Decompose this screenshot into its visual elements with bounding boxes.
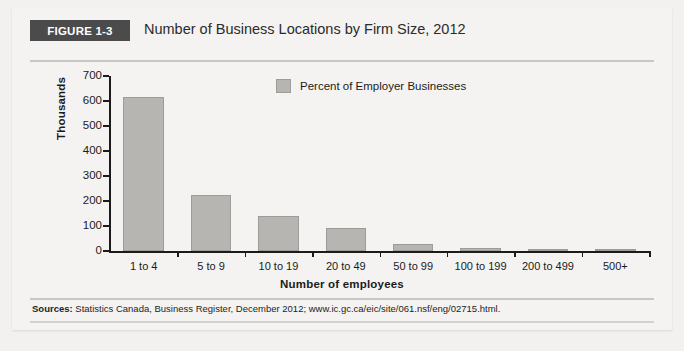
x-tick-label: 100 to 199 [447,260,514,272]
bar [528,249,568,251]
x-tick-label: 500+ [582,260,649,272]
x-tick-mark [514,251,516,257]
x-tick-mark [312,251,314,257]
bar-slot [447,76,514,251]
x-tick-mark [582,251,584,257]
legend-swatch-icon [276,79,291,93]
bar [326,228,366,251]
figure-root: FIGURE 1-3 Number of Business Locations … [0,0,684,351]
x-tick-mark [380,251,382,257]
bar [191,195,231,251]
bar-slot [245,76,312,251]
bar [595,249,635,251]
y-tick-label: 0 [68,244,102,256]
bar-slot [177,76,244,251]
source-note: Sources: Statistics Canada, Business Reg… [32,303,652,314]
x-tick-mark [447,251,449,257]
chart-legend: Percent of Employer Businesses [276,79,466,93]
x-tick-label: 10 to 19 [245,260,312,272]
bottom-divider [30,321,654,323]
bar [258,216,298,251]
y-tick-label: 300 [68,169,102,181]
y-tick-label: 200 [68,194,102,206]
bar-slot [312,76,379,251]
x-tick-label: 50 to 99 [380,260,447,272]
figure-panel: FIGURE 1-3 Number of Business Locations … [12,8,672,330]
y-tick-label: 700 [68,69,102,81]
x-tick-mark [245,251,247,257]
legend-label: Percent of Employer Businesses [300,80,466,92]
source-text: Statistics Canada, Business Register, De… [73,303,501,314]
footer-divider [30,298,654,300]
bar [460,248,500,251]
y-axis-title: Thousands [55,77,67,140]
x-tick-mark [177,251,179,257]
bar-slot [380,76,447,251]
bar [393,244,433,252]
x-tick-label: 20 to 49 [312,260,379,272]
bar-slot [514,76,581,251]
x-tick-mark [649,251,651,257]
x-axis-title: Number of employees [12,278,672,290]
bar-slot [110,76,177,251]
y-tick-label: 500 [68,119,102,131]
bar [123,97,163,252]
x-tick-label: 200 to 499 [514,260,581,272]
bar-series-layer [110,76,649,251]
source-label: Sources: [32,303,73,314]
x-tick-label: 5 to 9 [177,260,244,272]
y-tick-label: 100 [68,219,102,231]
y-tick-label: 600 [68,94,102,106]
bar-slot [582,76,649,251]
y-tick-label: 400 [68,144,102,156]
chart-plot-area: Thousands 0100200300400500600700 1 to 45… [12,8,672,330]
x-tick-label: 1 to 4 [110,260,177,272]
